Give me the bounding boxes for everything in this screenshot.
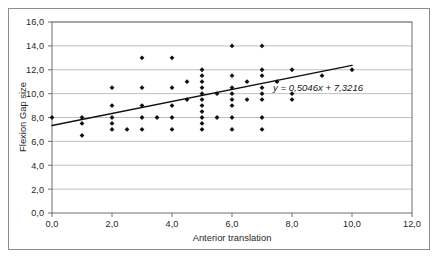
y-axis-tick-label: 6,0 <box>31 137 44 147</box>
y-axis-tick-label: 12,0 <box>26 65 44 75</box>
trendline-equation-label: y = 0,5046x + 7,3216 <box>272 82 364 93</box>
y-axis-tick-label: 4,0 <box>31 161 44 171</box>
x-axis-title: Anterior translation <box>193 232 272 243</box>
y-axis-tick-label: 14,0 <box>26 41 44 51</box>
x-axis-tick-label: 12,0 <box>403 219 421 229</box>
x-axis-tick-labels: 0,02,04,06,08,010,012,0 <box>46 219 421 229</box>
x-axis-tick-label: 10,0 <box>343 219 361 229</box>
y-axis-tick-label: 8,0 <box>31 113 44 123</box>
x-axis-tick-label: 6,0 <box>226 219 239 229</box>
x-axis-tick-label: 8,0 <box>286 219 299 229</box>
scatter-chart: 0,02,04,06,08,010,012,014,016,0 0,02,04,… <box>0 0 440 260</box>
y-axis-tick-labels: 0,02,04,06,08,010,012,014,016,0 <box>26 17 44 218</box>
y-axis-title: Flexion Gap size <box>17 82 28 152</box>
x-axis-tick-label: 0,0 <box>46 219 59 229</box>
y-axis-tick-label: 2,0 <box>31 185 44 195</box>
y-axis-tick-label: 0,0 <box>31 208 44 218</box>
chart-figure: 0,02,04,06,08,010,012,014,016,0 0,02,04,… <box>0 0 440 260</box>
x-axis-tick-label: 4,0 <box>166 219 179 229</box>
y-axis-tick-label: 16,0 <box>26 17 44 27</box>
y-axis-tick-label: 10,0 <box>26 89 44 99</box>
x-axis-tick-label: 2,0 <box>106 219 119 229</box>
